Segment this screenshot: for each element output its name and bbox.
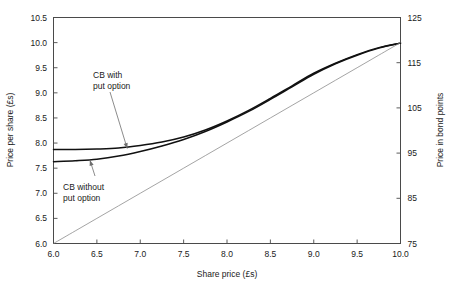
x-axis-tick-labels: 6.06.57.07.58.08.59.09.510.0 — [48, 249, 409, 259]
y-axis-tick-label: 10.5 — [30, 13, 47, 23]
x-axis-tick-label: 6.5 — [91, 249, 103, 259]
y-axis-tick-label: 9.5 — [35, 63, 47, 73]
y-axis-tick-label: 8.0 — [35, 138, 47, 148]
secondary-y-axis-tick-label: 85 — [408, 193, 418, 203]
secondary-y-axis-tick-label: 105 — [408, 103, 422, 113]
annotation-line-2: put option — [63, 193, 101, 203]
chart-container: 6.06.57.07.58.08.59.09.510.010.5 6.06.57… — [0, 0, 455, 288]
y-axis-tick-label: 8.5 — [35, 113, 47, 123]
x-axis-tick-label: 9.5 — [351, 249, 363, 259]
x-axis-tick-label: 9.0 — [308, 249, 320, 259]
x-axis-tick-label: 10.0 — [392, 249, 409, 259]
x-axis-tick-label: 8.0 — [221, 249, 233, 259]
secondary-y-axis-tick-label: 95 — [408, 148, 418, 158]
annotation-line-1: CB without — [63, 182, 105, 192]
annotation-line-1: CB with — [93, 70, 123, 80]
x-axis-tick-label: 8.5 — [264, 249, 276, 259]
y-axis-tick-label: 7.5 — [35, 163, 47, 173]
chart-background — [0, 0, 455, 288]
x-axis-title: Share price (£s) — [197, 269, 258, 279]
share-price-vs-cb-price-chart: 6.06.57.07.58.08.59.09.510.010.5 6.06.57… — [0, 0, 455, 288]
y-axis-title: Price per share (£s) — [5, 93, 15, 168]
y-axis-tick-label: 6.0 — [35, 239, 47, 249]
secondary-y-axis-tick-label: 125 — [408, 13, 422, 23]
annotation-line-2: put option — [93, 81, 131, 91]
secondary-y-axis-tick-label: 115 — [408, 58, 422, 68]
y-axis-tick-label: 10.0 — [30, 38, 47, 48]
secondary-y-axis-title: Price in bond points — [435, 93, 445, 168]
x-axis-tick-label: 7.5 — [178, 249, 190, 259]
x-axis-tick-label: 7.0 — [134, 249, 146, 259]
annotation-label-2: CB withoutput option — [63, 182, 105, 203]
x-axis-tick-label: 6.0 — [48, 249, 60, 259]
y-axis-tick-label: 6.5 — [35, 213, 47, 223]
y-axis-tick-label: 9.0 — [35, 88, 47, 98]
y-axis-tick-label: 7.0 — [35, 188, 47, 198]
secondary-y-axis-tick-label: 75 — [408, 239, 418, 249]
